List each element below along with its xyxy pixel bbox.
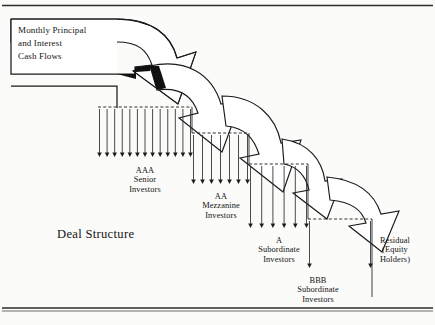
distribution-arrow-head — [143, 152, 148, 157]
tier-label-aaa: AAA Senior Investors — [110, 166, 180, 194]
distribution-arrow-head — [271, 223, 276, 228]
arrow-rain-aaa — [97, 109, 193, 157]
distribution-arrow-head — [165, 152, 170, 157]
distribution-arrow-head — [97, 152, 102, 157]
distribution-arrow-head — [227, 179, 232, 184]
distribution-arrow-head — [218, 179, 223, 184]
distribution-arrow-head — [282, 223, 287, 228]
distribution-arrow-head — [150, 152, 155, 157]
tier-label-aa: AA Mezzanine Investors — [186, 192, 256, 220]
distribution-arrow-head — [135, 152, 140, 157]
distribution-arrow-head — [236, 179, 241, 184]
distribution-arrow-head — [245, 179, 250, 184]
tier-label-a: A Subordinate Investors — [244, 236, 314, 264]
distribution-arrow-head — [158, 152, 163, 157]
distribution-arrow-head — [259, 223, 264, 228]
source-box-text: Monthly Principal and Interest Cash Flow… — [18, 24, 118, 63]
distribution-arrow-head — [188, 152, 193, 157]
page-title: Deal Structure — [57, 227, 134, 242]
distribution-arrow-head — [200, 179, 205, 184]
distribution-arrow-head — [128, 152, 133, 157]
distribution-arrow-head — [304, 223, 309, 228]
distribution-arrow-head — [181, 152, 186, 157]
distribution-arrow-head — [120, 152, 125, 157]
distribution-arrow-head — [191, 179, 196, 184]
diagram-canvas: .ln{stroke:#1a1a1a;fill:none;} .thick{st… — [0, 0, 435, 325]
distribution-arrow-head — [248, 223, 253, 228]
distribution-arrow-head — [105, 152, 110, 157]
distribution-arrow-head — [112, 152, 117, 157]
distribution-arrow-head — [293, 223, 298, 228]
distribution-arrow-head — [173, 152, 178, 157]
tier-label-residual: Residual (Equity Holders) — [362, 236, 428, 264]
tier-label-bbb: BBB Subordinate Investors — [283, 276, 353, 304]
distribution-arrow-head — [209, 179, 214, 184]
